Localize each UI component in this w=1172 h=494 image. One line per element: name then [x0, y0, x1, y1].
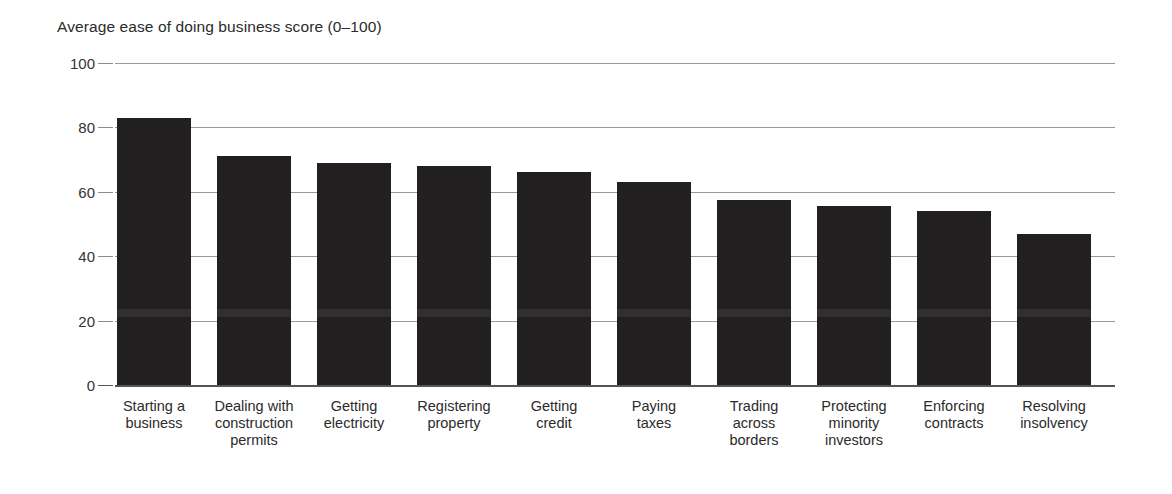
gridline-80	[115, 127, 1115, 128]
y-tick-label-60: 60	[35, 183, 95, 200]
x-axis-label: Tradingacrossborders	[702, 398, 806, 449]
x-axis-label: Gettingcredit	[502, 398, 606, 432]
bar	[617, 182, 691, 385]
x-axis-label-line: Paying	[602, 398, 706, 415]
x-axis-label: Starting abusiness	[102, 398, 206, 432]
y-tick-mark-20	[98, 321, 113, 322]
bar	[917, 211, 991, 385]
y-tick-label-20: 20	[35, 312, 95, 329]
x-axis-label-line: credit	[502, 415, 606, 432]
y-tick-label-100: 100	[35, 55, 95, 72]
x-axis-label-line: Trading	[702, 398, 806, 415]
bar	[417, 166, 491, 385]
x-axis-label-line: Enforcing	[902, 398, 1006, 415]
x-axis-label-line: borders	[702, 432, 806, 449]
x-axis-label-line: Registering	[402, 398, 506, 415]
x-axis-label-line: insolvency	[1002, 415, 1106, 432]
x-axis-label-line: construction	[202, 415, 306, 432]
plot-area	[115, 63, 1115, 385]
x-axis-label-line: minority	[802, 415, 906, 432]
x-axis-label: Dealing withconstructionpermits	[202, 398, 306, 449]
x-axis-label-line: taxes	[602, 415, 706, 432]
bar	[817, 206, 891, 385]
bar	[217, 156, 291, 385]
x-axis-label-line: Dealing with	[202, 398, 306, 415]
y-tick-label-80: 80	[35, 119, 95, 136]
x-axis-label-line: Getting	[502, 398, 606, 415]
y-tick-label-0: 0	[35, 377, 95, 394]
x-axis-label-line: Resolving	[1002, 398, 1106, 415]
gridline-100	[115, 63, 1115, 64]
y-tick-mark-40	[98, 256, 113, 257]
x-axis-label: Protectingminorityinvestors	[802, 398, 906, 449]
x-axis-label: Enforcingcontracts	[902, 398, 1006, 432]
y-tick-mark-60	[98, 192, 113, 193]
chart-title: Average ease of doing business score (0–…	[57, 18, 382, 36]
bar	[717, 200, 791, 385]
y-tick-label-40: 40	[35, 248, 95, 265]
y-tick-mark-100	[98, 63, 113, 64]
bar	[1017, 234, 1091, 385]
x-axis-label: Resolvinginsolvency	[1002, 398, 1106, 432]
x-axis-label-line: Protecting	[802, 398, 906, 415]
y-tick-mark-80	[98, 127, 113, 128]
bar	[117, 118, 191, 385]
x-axis-label-line: Getting	[302, 398, 406, 415]
bar-chart-figure: Average ease of doing business score (0–…	[0, 0, 1172, 494]
y-tick-mark-0	[98, 385, 113, 386]
x-axis-label-line: property	[402, 415, 506, 432]
x-axis-label: Gettingelectricity	[302, 398, 406, 432]
gridline-0	[115, 385, 1115, 387]
bar	[317, 163, 391, 385]
x-axis-label-line: electricity	[302, 415, 406, 432]
x-axis-label-line: permits	[202, 432, 306, 449]
x-axis-label-line: Starting a	[102, 398, 206, 415]
x-axis-label: Registeringproperty	[402, 398, 506, 432]
x-axis-label-line: contracts	[902, 415, 1006, 432]
x-axis-label-line: investors	[802, 432, 906, 449]
x-axis-label: Payingtaxes	[602, 398, 706, 432]
x-axis-label-line: across	[702, 415, 806, 432]
x-axis-label-line: business	[102, 415, 206, 432]
bar	[517, 172, 591, 385]
